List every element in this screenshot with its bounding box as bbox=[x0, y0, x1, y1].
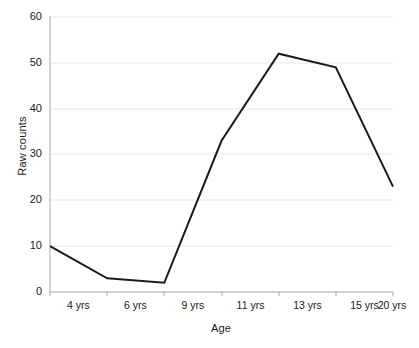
x-axis-title: Age bbox=[49, 322, 393, 334]
x-tick-label-2: 9 yrs bbox=[164, 300, 222, 311]
plot-area bbox=[0, 0, 419, 348]
x-tick-label-1: 6 yrs bbox=[107, 300, 164, 311]
data-series-line bbox=[50, 54, 393, 283]
x-tick-label-4: 13 yrs bbox=[279, 300, 336, 311]
x-tick-label-6: 20 yrs bbox=[365, 300, 419, 311]
line-chart: Raw counts 60 50 40 30 20 10 0 bbox=[0, 0, 419, 348]
x-axis-ticks bbox=[50, 292, 393, 296]
x-tick-label-0: 4 yrs bbox=[50, 300, 107, 311]
x-tick-label-3: 11 yrs bbox=[222, 300, 279, 311]
gridlines bbox=[50, 17, 393, 246]
